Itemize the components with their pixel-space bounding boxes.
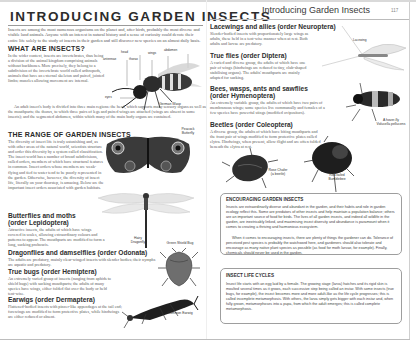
neuroptera-body: Slender-bodied insects with proportionat… [210,31,310,46]
what-are-insects-p1: In the wider context, insects are invert… [8,53,105,84]
caption-german-wasp: German Wasp [155,102,185,106]
heading-hymenoptera: Bees, wasps, ants and sawflies (order Hy… [210,85,330,99]
heading-diptera: True flies (order Diptera) [210,52,287,59]
label-head: head [121,50,128,54]
green-shield-bug-illustration [158,248,200,290]
hemiptera-body: An extremely varied group of insects (ra… [8,276,113,296]
caption-green-shield-bug: Green Shield Bug [160,241,200,245]
title-rule [8,25,203,26]
odonata-body: The adults are predatory, mainly clear-w… [8,257,158,267]
heading-neuroptera: Lacewings and allies (order Neuroptera) [210,23,340,30]
lacewing-illustration [322,26,408,76]
heading-lepidoptera-main: Butterflies and moths [8,212,76,219]
caption-lacewing: Lacewing [353,38,366,42]
bumblebee-illustration [304,136,356,192]
label-thorax: thorax [129,57,138,61]
heading-what-are-insects: WHAT ARE INSECTS? [8,45,85,52]
wasp-illustration [100,52,205,114]
caption-hoverfly: A hover-fly Volucella pellucens [376,118,406,126]
page-right-edge [409,2,410,339]
label-antennae: antennae [103,57,116,61]
header-rule [210,19,409,20]
encouraging-box-p2: When it comes to encouraging insects, th… [226,236,398,256]
heading-coleoptera: Beetles (order Coleoptera) [210,121,293,128]
encouraging-box-title: ENCOURAGING GARDEN INSECTS [226,197,303,202]
running-header: Introducing Garden Insects [262,5,370,15]
heading-hymenoptera-sub: (order Hymenoptera) [210,92,275,99]
lepidoptera-body: Attractive insects, the adults of which … [8,227,105,247]
label-abdomen: abdomen [164,48,177,52]
book-spread: INTRODUCING GARDEN INSECTS Insects are a… [0,0,416,340]
page-bottom-edge [0,339,410,340]
heading-lepidoptera-sub: (order Lepidoptera) [8,219,69,226]
page-title: INTRODUCING GARDEN INSECTS [10,9,271,24]
lifecycles-box-title: INSECT LIFE CYCLES [226,273,274,278]
label-eyes: eyes [105,95,112,99]
diptera-body: A varied and diverse group, the adults o… [210,60,310,80]
label-wings: wings [148,51,156,55]
dermaptera-body: Flattened-bodied insects with pincer-lik… [8,304,123,319]
page-number: 117 [391,8,398,13]
caption-peacock-butterfly: Peacock Butterfly [176,127,200,135]
range-body: The diversity of insect life is truly as… [8,139,105,190]
caption-hairy-dragonfly: Hairy Dragonfly [128,236,148,244]
heading-lepidoptera: Butterflies and moths (order Lepidoptera… [8,212,108,226]
top-edge [0,0,416,2]
peacock-butterfly-illustration [103,136,193,176]
hymenoptera-body: An extremely variable group, the adults … [210,100,330,115]
heading-dermaptera: Earwigs (order Dermaptera) [8,296,95,303]
caption-common-earwig: Common Earwig [165,311,195,315]
lifecycles-box-body: Insect life starts with an egg laid by a… [226,282,398,313]
page-gutter [206,0,207,340]
caption-rose-chafer: Rose Chafer (a beetle) [268,168,288,176]
intro-paragraph: Insects are among the most numerous orga… [8,27,204,43]
encouraging-box-p1: Insects are extraordinarily diverse and … [226,205,398,230]
heading-hymenoptera-main: Bees, wasps, ants and sawflies [210,85,308,92]
heading-hemiptera: True bugs (order Hemiptera) [8,268,97,275]
caption-bumblebee: Red-tailed Bumblebee [324,173,350,181]
hoverfly-illustration [342,83,402,121]
